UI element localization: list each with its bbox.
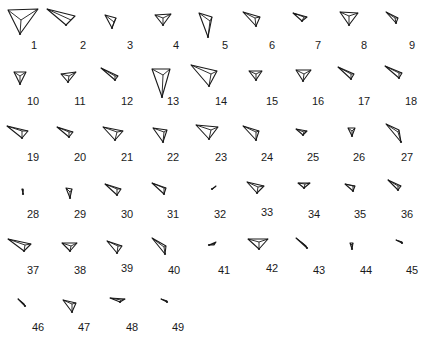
glyph-label: 42 <box>266 262 278 274</box>
glyph-layer <box>0 0 424 346</box>
tetrahedron-glyph-icon <box>247 182 264 194</box>
tetrahedron-glyph-icon <box>8 239 31 252</box>
tetrahedron-glyph-icon <box>7 126 28 139</box>
glyph-label: 49 <box>172 321 184 333</box>
tetrahedron-glyph-icon <box>386 124 402 143</box>
glyph-label: 22 <box>167 151 179 163</box>
glyph-label: 28 <box>27 208 39 220</box>
tetrahedron-glyph-icon <box>161 299 168 303</box>
tetrahedron-glyph-icon <box>345 184 355 192</box>
glyph-label: 17 <box>358 95 370 107</box>
tetrahedron-glyph-icon <box>110 298 125 303</box>
glyph-label: 31 <box>167 208 179 220</box>
tetrahedron-glyph-icon <box>155 14 171 26</box>
tetrahedron-glyph-icon <box>350 243 353 250</box>
glyph-label: 24 <box>261 151 273 163</box>
glyph-label: 43 <box>313 264 325 276</box>
tetrahedron-glyph-icon <box>296 70 311 82</box>
tetrahedron-glyph-icon <box>249 71 262 81</box>
glyph-label: 12 <box>121 95 133 107</box>
tetrahedron-glyph-icon <box>57 127 73 138</box>
glyph-label: 2 <box>80 39 86 51</box>
tetrahedron-glyph-icon <box>385 66 402 79</box>
tetrahedron-glyph-icon <box>18 299 26 307</box>
glyph-label: 5 <box>222 39 228 51</box>
glyph-label: 8 <box>361 39 367 51</box>
glyph-label: 6 <box>269 39 275 51</box>
tetrahedron-glyph-icon <box>103 127 123 141</box>
tetrahedron-glyph-icon <box>191 65 217 87</box>
tetrahedron-glyph-icon <box>152 238 166 255</box>
tetrahedron-glyph-icon <box>14 72 26 85</box>
tetrahedron-glyph-icon <box>386 12 398 24</box>
tetrahedron-glyph-icon <box>152 183 166 195</box>
glyph-label: 30 <box>121 208 133 220</box>
tetrahedron-glyph-icon <box>293 13 307 22</box>
tetrahedron-glyph-icon <box>298 183 310 189</box>
glyph-label: 7 <box>315 39 321 51</box>
glyph-label: 18 <box>405 95 417 107</box>
tetrahedron-glyph-icon <box>208 242 216 246</box>
glyph-label: 39 <box>121 262 133 274</box>
glyph-label: 20 <box>74 151 86 163</box>
glyph-label: 11 <box>74 95 85 107</box>
tetrahedron-glyph-icon <box>196 125 218 140</box>
tetrahedron-glyph-icon <box>101 68 118 81</box>
glyph-label: 3 <box>127 39 133 51</box>
glyph-label: 37 <box>27 264 39 276</box>
tetrahedron-glyph-figure: 1234567891011121314151617181920212223242… <box>0 0 424 346</box>
tetrahedron-glyph-icon <box>62 243 77 252</box>
glyph-label: 36 <box>401 208 413 220</box>
tetrahedron-glyph-icon <box>388 180 401 191</box>
tetrahedron-glyph-icon <box>338 67 354 80</box>
glyph-label: 15 <box>266 95 278 107</box>
glyph-label: 45 <box>406 264 418 276</box>
glyph-label: 44 <box>360 264 372 276</box>
glyph-label: 14 <box>215 95 227 107</box>
glyph-label: 38 <box>74 264 86 276</box>
glyph-label: 29 <box>74 208 86 220</box>
glyph-label: 27 <box>401 151 413 163</box>
glyph-label: 25 <box>307 151 319 163</box>
glyph-label: 35 <box>354 208 366 220</box>
glyph-label: 41 <box>218 264 230 276</box>
tetrahedron-glyph-icon <box>107 241 122 254</box>
tetrahedron-glyph-icon <box>211 186 216 190</box>
glyph-label: 10 <box>27 95 39 107</box>
tetrahedron-glyph-icon <box>63 300 76 313</box>
tetrahedron-glyph-icon <box>396 240 403 244</box>
tetrahedron-glyph-icon <box>153 128 167 143</box>
tetrahedron-glyph-icon <box>105 184 121 196</box>
tetrahedron-glyph-icon <box>61 72 76 83</box>
glyph-label: 9 <box>409 39 415 51</box>
glyph-label: 13 <box>167 95 179 107</box>
tetrahedron-glyph-icon <box>348 128 355 137</box>
glyph-label: 48 <box>126 321 138 333</box>
glyph-label: 26 <box>353 151 365 163</box>
tetrahedron-glyph-icon <box>248 239 268 250</box>
tetrahedron-glyph-icon <box>152 69 170 98</box>
tetrahedron-glyph-icon <box>243 12 260 27</box>
glyph-label: 1 <box>31 39 37 51</box>
glyph-label: 16 <box>312 95 324 107</box>
glyph-label: 21 <box>121 151 133 163</box>
glyph-label: 32 <box>214 208 226 220</box>
tetrahedron-glyph-icon <box>8 9 38 35</box>
tetrahedron-glyph-icon <box>340 12 358 26</box>
tetrahedron-glyph-icon <box>296 129 307 136</box>
glyph-label: 4 <box>173 39 179 51</box>
tetrahedron-glyph-icon <box>47 9 75 26</box>
glyph-label: 34 <box>308 208 320 220</box>
glyph-label: 47 <box>78 321 90 333</box>
glyph-label: 19 <box>27 151 39 163</box>
tetrahedron-glyph-icon <box>105 15 116 29</box>
tetrahedron-glyph-icon <box>66 188 72 199</box>
glyph-label: 40 <box>168 264 180 276</box>
glyph-label: 23 <box>215 151 227 163</box>
tetrahedron-glyph-icon <box>22 189 24 195</box>
tetrahedron-glyph-icon <box>199 13 212 38</box>
glyph-label: 46 <box>32 321 44 333</box>
tetrahedron-glyph-icon <box>296 238 308 249</box>
tetrahedron-glyph-icon <box>243 126 259 141</box>
glyph-label: 33 <box>261 206 273 218</box>
